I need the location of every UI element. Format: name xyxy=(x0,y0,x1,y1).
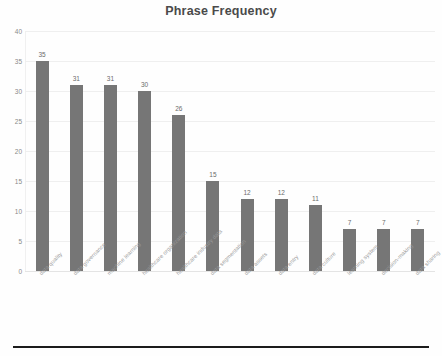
gridline xyxy=(25,91,435,92)
y-axis-tick-label: 0 xyxy=(2,268,22,275)
gridline xyxy=(25,211,435,212)
bar[interactable] xyxy=(104,85,117,271)
y-axis-tick-label: 15 xyxy=(2,178,22,185)
bar-value-label: 11 xyxy=(300,195,330,202)
bar[interactable] xyxy=(206,181,219,271)
gridline xyxy=(25,241,435,242)
y-axis-tick-label: 25 xyxy=(2,118,22,125)
bar-value-label: 30 xyxy=(130,81,160,88)
y-axis-tick-label: 30 xyxy=(2,88,22,95)
y-axis-tick-label: 35 xyxy=(2,58,22,65)
gridline xyxy=(25,121,435,122)
gridline xyxy=(25,151,435,152)
chart-title: Phrase Frequency xyxy=(0,4,442,18)
y-axis-tick-label: 40 xyxy=(2,28,22,35)
bar-value-label: 31 xyxy=(95,75,125,82)
gridline xyxy=(25,61,435,62)
bar-chart: Phrase Frequency 4035302520151050 353131… xyxy=(0,0,442,356)
y-axis-tick-label: 5 xyxy=(2,238,22,245)
bar-value-label: 35 xyxy=(27,51,57,58)
plot-area: 353131302615121211777 xyxy=(25,31,435,271)
bar-value-label: 12 xyxy=(266,189,296,196)
y-axis-tick-label: 10 xyxy=(2,208,22,215)
bar-value-label: 7 xyxy=(403,219,433,226)
bar-value-label: 26 xyxy=(164,105,194,112)
bar[interactable] xyxy=(172,115,185,271)
y-axis-tick-label: 20 xyxy=(2,148,22,155)
bar-value-label: 31 xyxy=(61,75,91,82)
bottom-divider xyxy=(13,346,429,348)
bar[interactable] xyxy=(275,199,288,271)
bar-value-label: 7 xyxy=(335,219,365,226)
bar-value-label: 15 xyxy=(198,171,228,178)
y-axis-tick-labels: 4035302520151050 xyxy=(0,31,22,271)
x-axis-category-labels: data qualitydata governancemachine learn… xyxy=(25,272,435,334)
gridline xyxy=(25,31,435,32)
bar[interactable] xyxy=(241,199,254,271)
gridline xyxy=(25,181,435,182)
bar[interactable] xyxy=(70,85,83,271)
bar-value-label: 7 xyxy=(369,219,399,226)
bar[interactable] xyxy=(36,61,49,271)
bar-value-label: 12 xyxy=(232,189,262,196)
